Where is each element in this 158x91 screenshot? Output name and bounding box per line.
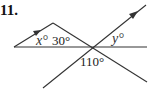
label-30-angle: 30°: [52, 33, 70, 48]
transversal-line-down: [53, 23, 147, 82]
label-x-angle: x°: [35, 33, 48, 48]
label-y-angle: y°: [110, 31, 124, 46]
problem-number: 11.: [0, 2, 18, 18]
geometry-diagram: 11. x° 30° y° 110°: [0, 0, 158, 91]
label-110-angle: 110°: [80, 54, 104, 69]
